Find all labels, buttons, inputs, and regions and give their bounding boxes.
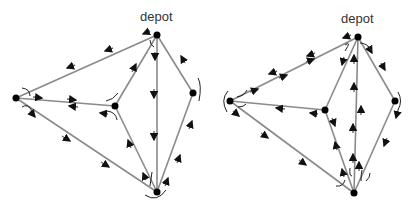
left-graph xyxy=(13,31,201,198)
node-left-right xyxy=(227,98,234,105)
node-depot-left xyxy=(154,32,161,39)
node-right-left xyxy=(190,90,197,97)
node-right-right xyxy=(392,98,399,105)
route-diagrams xyxy=(0,0,413,210)
node-center-left xyxy=(112,103,119,110)
node-bottom-left xyxy=(154,189,161,196)
node-depot-right xyxy=(355,34,362,41)
right-graph xyxy=(224,34,401,197)
node-left-left xyxy=(13,95,20,102)
node-center-right xyxy=(322,107,329,114)
node-bottom-right xyxy=(351,190,358,197)
